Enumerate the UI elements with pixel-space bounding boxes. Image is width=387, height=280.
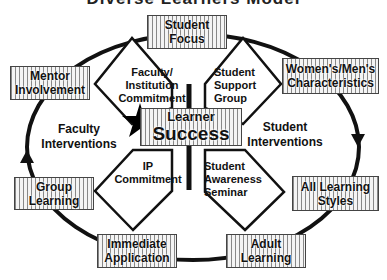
immediate-application-line1: Immediate bbox=[107, 237, 166, 251]
student-interventions-line1: Student bbox=[242, 120, 328, 135]
student-interventions-line2: Interventions bbox=[242, 135, 328, 150]
womens-mens-line2: Characteristics bbox=[287, 76, 374, 90]
mentor-involvement-line2: Involvement bbox=[15, 83, 85, 97]
group-learning-box: Group Learning bbox=[14, 177, 94, 210]
diamond-top-right-line1: Student bbox=[214, 66, 270, 79]
learner-success-box: Learner Success bbox=[140, 108, 242, 146]
diamond-bottom-left-label: IP Commitment bbox=[108, 160, 188, 186]
diamond-bottom-right-line1: Student bbox=[204, 160, 274, 173]
diamond-bottom-right-line2: Awareness bbox=[204, 173, 274, 186]
diamond-bottom-right-line3: Seminar bbox=[204, 186, 274, 199]
group-learning-line2: Learning bbox=[29, 194, 80, 208]
immediate-application-box: Immediate Application bbox=[97, 234, 177, 268]
learner-success-line1: Learner bbox=[167, 110, 215, 124]
student-focus-line1: Student bbox=[165, 18, 210, 32]
student-interventions-label: Student Interventions bbox=[242, 120, 328, 150]
diamond-top-left-line2: Institution bbox=[114, 79, 190, 92]
faculty-interventions-line2: Interventions bbox=[36, 137, 122, 152]
adult-learning-line2: Learning bbox=[241, 251, 292, 265]
womens-mens-line1: Women's/Men's bbox=[286, 62, 376, 76]
mentor-involvement-line1: Mentor bbox=[30, 69, 70, 83]
diamond-bottom-left-line1: IP bbox=[108, 160, 188, 173]
faculty-interventions-label: Faculty Interventions bbox=[36, 122, 122, 152]
womens-mens-box: Women's/Men's Characteristics bbox=[282, 58, 379, 94]
student-focus-box: Student Focus bbox=[147, 15, 227, 49]
adult-learning-box: Adult Learning bbox=[226, 234, 306, 268]
all-learning-styles-line2: Styles bbox=[318, 194, 353, 208]
learner-success-line2: Success bbox=[152, 124, 229, 144]
diamond-top-right-line2: Support bbox=[214, 79, 270, 92]
diamond-bottom-left-line2: Commitment bbox=[108, 173, 188, 186]
faculty-interventions-line1: Faculty bbox=[36, 122, 122, 137]
adult-learning-line1: Adult bbox=[251, 237, 282, 251]
diamond-top-right-label: Student Support Group bbox=[214, 66, 270, 105]
all-learning-styles-line1: All Learning bbox=[301, 180, 370, 194]
all-learning-styles-box: All Learning Styles bbox=[292, 176, 379, 211]
down-arrow-icon bbox=[351, 134, 365, 147]
mentor-involvement-box: Mentor Involvement bbox=[10, 66, 90, 100]
diamond-top-left-line3: Commitment bbox=[114, 92, 190, 105]
diamond-bottom-right-label: Student Awareness Seminar bbox=[204, 160, 274, 199]
group-learning-line1: Group bbox=[36, 180, 72, 194]
up-arrow-icon bbox=[20, 150, 34, 163]
diamond-top-left-label: Faculty/ Institution Commitment bbox=[114, 66, 190, 105]
student-focus-line2: Focus bbox=[169, 32, 204, 46]
immediate-application-line2: Application bbox=[104, 251, 169, 265]
diamond-top-right-line3: Group bbox=[214, 92, 270, 105]
diamond-top-left-line1: Faculty/ bbox=[114, 66, 190, 79]
